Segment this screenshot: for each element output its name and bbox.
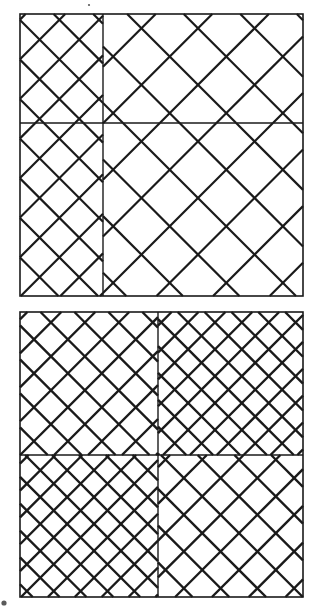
hatch-down-right-top-right xyxy=(103,14,303,123)
hatch-group-top-right xyxy=(103,14,303,123)
hatch-down-left-top-left xyxy=(20,14,103,123)
speck-bottom-left xyxy=(1,600,6,605)
square-bottom xyxy=(20,312,303,597)
hatch-group-top-right xyxy=(158,312,303,455)
figures-layer xyxy=(20,14,303,597)
hatch-group-bottom-right xyxy=(158,455,303,597)
speck-top xyxy=(88,4,90,6)
figure-root xyxy=(0,0,315,610)
hatch-down-left-bottom-right xyxy=(103,123,303,296)
hatch-down-left-top-left xyxy=(20,312,158,455)
hatch-group-bottom-left xyxy=(20,455,158,597)
hatch-down-left-top-right xyxy=(103,14,303,123)
square-top xyxy=(20,14,303,296)
diagram-canvas xyxy=(0,0,315,610)
hatch-down-right-bottom-left xyxy=(20,123,103,296)
hatch-group-bottom-right xyxy=(103,123,303,296)
hatch-group-top-left xyxy=(20,312,158,455)
hatch-group-top-left xyxy=(20,14,103,123)
hatch-group-bottom-left xyxy=(20,123,103,296)
